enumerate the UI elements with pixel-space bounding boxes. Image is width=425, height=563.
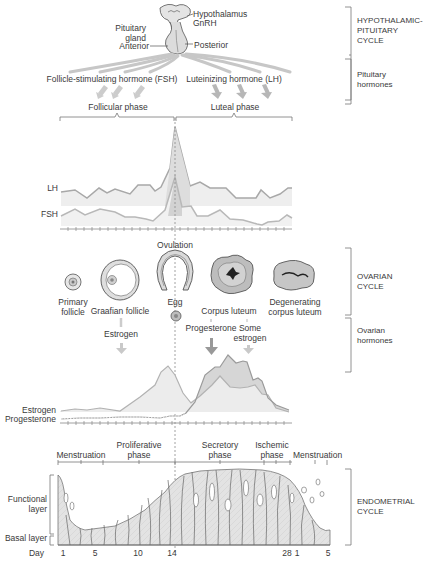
day-tick: 28 xyxy=(282,548,291,558)
luteal-phase-label: Luteal phase xyxy=(211,102,260,112)
fsh-arrows xyxy=(96,85,145,99)
phase-braces xyxy=(60,113,292,121)
fsh-hormone-label: Follicle-stimulating hormone (FSH) xyxy=(47,74,178,84)
gnrh-label: GnRH xyxy=(193,18,217,28)
lh-hormone-label: Luteinizing hormone (LH) xyxy=(186,74,281,84)
ovarian-hormone-chart xyxy=(60,355,292,425)
egg-icon xyxy=(171,311,181,321)
day-axis-label: Day xyxy=(29,548,44,558)
some-estrogen-label: Some estrogen xyxy=(233,323,266,343)
endometrial-phase-axis xyxy=(58,460,327,465)
day-tick: 1 xyxy=(295,548,300,558)
functional-layer-label: Functional layer xyxy=(8,494,47,514)
corpus-luteum-label: Corpus luteum xyxy=(201,306,256,316)
ovarian-hormones-label: Ovarian hormones xyxy=(357,326,393,346)
primary-follicle-icon xyxy=(65,274,81,290)
menstruation-phase-2-label: Menstruation xyxy=(293,450,342,460)
layer-bracket xyxy=(50,475,54,545)
pituitary-hormone-chart xyxy=(60,127,292,231)
egg-label: Egg xyxy=(167,297,182,307)
corpus-luteum-icon xyxy=(211,255,253,294)
day-tick: 14 xyxy=(167,548,176,558)
day-tick: 5 xyxy=(93,548,98,558)
posterior-label: Posterior xyxy=(194,40,228,50)
endometrial-cycle-label: ENDOMETRIAL CYCLE xyxy=(357,497,415,517)
menstruation-phase-label: Menstruation xyxy=(56,450,105,460)
primary-follicle-label: Primary follicle xyxy=(58,297,87,317)
lh-arrows xyxy=(211,84,272,99)
ovarian-cycle-label: OVARIAN CYCLE xyxy=(357,272,392,292)
progesterone-series-label: Progesterone xyxy=(5,414,56,424)
graafian-follicle-icon xyxy=(101,260,139,300)
day-tick: 10 xyxy=(133,548,142,558)
basal-layer-label: Basal layer xyxy=(5,533,47,543)
pituitary-gland-label: Pituitary gland xyxy=(115,23,146,43)
right-brackets xyxy=(345,7,351,545)
follicular-phase-label: Follicular phase xyxy=(88,102,148,112)
pituitary-gland-icon xyxy=(150,4,193,54)
estrogen-area xyxy=(60,366,289,412)
ischemic-phase-label: Ischemic phase xyxy=(255,440,289,460)
secretory-phase-label: Secretory phase xyxy=(202,440,238,460)
day-tick: 5 xyxy=(326,548,331,558)
lh-series-label: LH xyxy=(47,183,58,193)
endometrium-illustration xyxy=(58,469,330,545)
degenerating-corpus-luteum-label: Degenerating corpus luteum xyxy=(268,297,321,317)
fsh-series-label: FSH xyxy=(41,209,58,219)
graafian-follicle-label: Graafian follicle xyxy=(91,306,150,316)
hormone-streaks xyxy=(70,54,290,72)
progesterone-hormone-label: Progesterone xyxy=(185,323,236,333)
anterior-label: Anterior xyxy=(119,41,149,51)
ovulation-label: Ovulation xyxy=(157,240,193,250)
pituitary-hormones-label: Pituitary hormones xyxy=(357,70,393,90)
day-tick: 1 xyxy=(61,548,66,558)
degenerating-corpus-luteum-icon xyxy=(274,260,315,290)
hypothalamic-pituitary-cycle-label: HYPOTHALAMIC- PITUITARY CYCLE xyxy=(357,16,423,46)
proliferative-phase-label: Proliferative phase xyxy=(117,440,162,460)
estrogen-hormone-label: Estrogen xyxy=(104,329,138,339)
